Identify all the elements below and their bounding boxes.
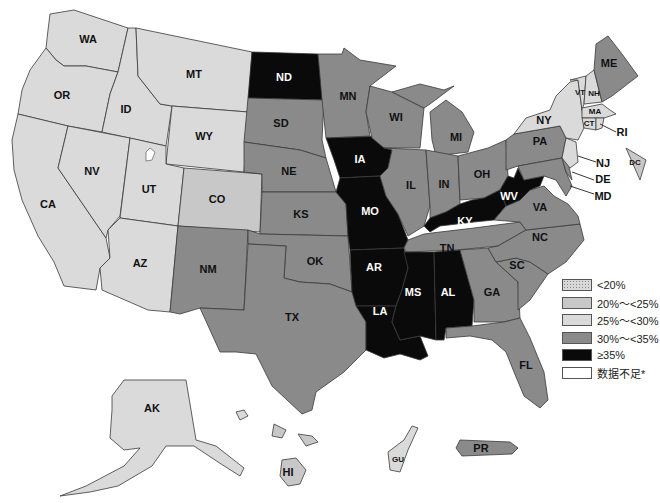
state-label-ny: NY [536,114,552,126]
state-label-ia: IA [355,153,366,165]
legend-row-lt20: <20% [562,277,660,293]
state-label-wy: WY [195,130,213,142]
state-gu [388,426,418,472]
legend-label: <20% [597,279,625,291]
state-label-ut: UT [142,183,157,195]
state-label-tx: TX [285,311,300,323]
us-choropleth-map: WAORCAIDNVMTWYUTAZCONMNDSDNEKSOKTXMNIAMO… [0,0,660,503]
legend-swatch-30-35 [562,332,592,344]
state-label-dc: DC [629,158,641,167]
legend-row-ge35: ≥35% [562,347,660,363]
state-label-va: VA [533,201,548,213]
state-label-ct: CT [584,119,595,128]
state-label-mo: MO [361,205,379,217]
state-label-ak: AK [144,402,160,414]
state-label-nd: ND [276,71,292,83]
state-me [594,36,638,102]
legend-swatch-nodata [562,367,592,379]
legend-label: 数据不足* [597,365,645,381]
legend-label: 25%～<30% [597,312,658,328]
state-label-sd: SD [273,117,288,129]
legend: <20% 20%～<25% 25%～<30% 30%～<35% ≥35% 数据不… [562,277,660,382]
state-label-pa: PA [533,135,548,147]
state-label-la: LA [373,305,388,317]
state-label-wa: WA [79,33,97,45]
legend-swatch-lt20 [562,279,592,291]
leader-md [570,186,594,194]
state-label-co: CO [209,193,226,205]
legend-row-25-30: 25%～<30% [562,312,660,328]
leader-de [572,172,594,180]
state-label-tn: TN [440,242,455,254]
state-label-ma: MA [589,107,602,116]
legend-label: 30%～<35% [597,330,658,346]
legend-row-nodata: 数据不足* [562,365,660,381]
legend-row-30-35: 30%～<35% [562,330,660,346]
state-label-ok: OK [307,255,324,267]
legend-label: 20%～<25% [597,295,658,311]
state-label-id: ID [121,103,132,115]
state-label-ri: RI [617,126,628,138]
legend-label: ≥35% [597,349,625,361]
state-label-md: MD [594,190,611,202]
leader-nj [578,156,596,162]
state-label-sc: SC [509,259,524,271]
state-label-vt: VT [575,88,585,97]
state-label-az: AZ [133,257,148,269]
state-label-pr: PR [473,442,488,454]
state-label-oh: OH [474,168,491,180]
state-label-ks: KS [293,208,308,220]
state-label-wv: WV [500,190,518,202]
state-label-gu: GU [392,455,404,464]
state-label-de: DE [595,173,610,185]
state-label-in: IN [439,178,450,190]
state-label-mi: MI [450,131,462,143]
legend-swatch-ge35 [562,349,592,361]
state-label-nh: NH [588,89,600,98]
state-label-nv: NV [84,165,100,177]
state-label-hi: HI [283,466,294,478]
state-label-ms: MS [405,286,422,298]
state-label-me: ME [601,57,618,69]
state-label-al: AL [441,286,456,298]
island-ak [236,410,248,420]
state-label-wi: WI [389,111,402,123]
state-label-ar: AR [366,261,382,273]
state-label-mn: MN [339,90,356,102]
state-label-ca: CA [40,198,56,210]
state-label-mt: MT [186,68,202,80]
state-label-ne: NE [281,165,296,177]
state-label-il: IL [406,179,416,191]
state-label-nc: NC [532,231,548,243]
state-label-ga: GA [484,286,501,298]
legend-swatch-20-25 [562,297,592,309]
legend-swatch-25-30 [562,314,592,326]
state-label-or: OR [54,89,71,101]
legend-row-20-25: 20%～<25% [562,295,660,311]
state-label-nm: NM [199,263,216,275]
state-label-ky: KY [457,215,473,227]
state-label-nj: NJ [596,157,610,169]
state-label-fl: FL [519,359,533,371]
state-ak [60,380,244,496]
state-hi [272,424,318,486]
